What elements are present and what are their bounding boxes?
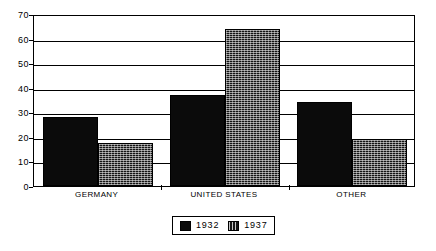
y-axis-ticks [0,15,33,187]
y-tick-mark [29,187,33,188]
bar-other-1932 [297,102,352,186]
bar-united-states-1932 [170,95,225,186]
bar-germany-1937 [98,143,153,186]
plot-area [33,15,415,187]
legend-entry-1937: 1937 [228,221,267,231]
x-tick-label-united-states: UNITED STATES [160,190,287,200]
legend-swatch-1937 [228,221,239,231]
x-tick-label-other: OTHER [288,190,415,200]
bar-chart: 010203040506070 GERMANYUNITED STATESOTHE… [0,0,436,251]
chart-legend: 19321937 [172,216,275,235]
bar-united-states-1937 [225,29,280,186]
x-tick-label-germany: GERMANY [33,190,160,200]
bars-layer [34,16,414,186]
legend-label-1937: 1937 [244,221,267,230]
legend-label-1932: 1932 [196,221,219,230]
legend-entry-1932: 1932 [180,221,219,231]
bar-other-1937 [352,139,407,186]
bar-germany-1932 [43,117,98,186]
legend-swatch-1932 [180,221,191,231]
x-axis-labels: GERMANYUNITED STATESOTHER [33,190,415,204]
